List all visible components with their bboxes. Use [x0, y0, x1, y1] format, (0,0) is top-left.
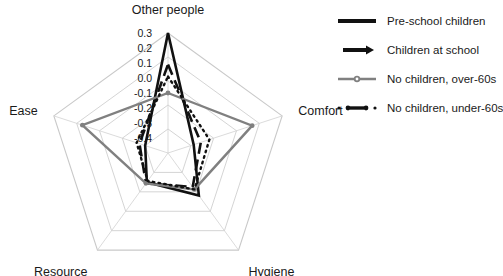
- axis-label-other-people: Other people: [132, 3, 204, 17]
- legend-item[interactable]: Children at school: [336, 35, 496, 64]
- gray-marker-line-key: [336, 72, 378, 86]
- legend-label: Pre-school children: [387, 14, 485, 28]
- legend-label: No children, over-60s: [387, 72, 496, 86]
- dotted-marker-line-key: [336, 101, 378, 115]
- axis-label-hygiene: Hygiene: [249, 265, 295, 276]
- axis-category-labels: Other peopleComfortHygieneResourceEase: [9, 3, 343, 276]
- legend-item[interactable]: No children, over-60s: [336, 64, 496, 93]
- axis-label-resource: Resource: [34, 265, 88, 276]
- solid-thick-line-key: [336, 14, 378, 28]
- axis-label-ease: Ease: [9, 104, 38, 118]
- legend-item[interactable]: No children, under-60s: [336, 93, 496, 122]
- tick-label: -0.1: [134, 87, 152, 99]
- arrow-dash-line-key: [336, 43, 378, 57]
- tick-label: 0.3: [137, 27, 152, 39]
- series-marker: [80, 123, 85, 128]
- tick-label: 0.1: [137, 57, 152, 69]
- tick-label: 0.2: [137, 42, 152, 54]
- legend-label: No children, under-60s: [387, 101, 503, 115]
- series-marker: [250, 123, 255, 128]
- tick-label: 0.0: [137, 72, 152, 84]
- legend-label: Children at school: [387, 43, 479, 57]
- chart-legend: Pre-school childrenChildren at schoolNo …: [336, 6, 496, 122]
- legend-item[interactable]: Pre-school children: [336, 6, 496, 35]
- series-line-2: [82, 93, 252, 189]
- series-marker: [166, 91, 171, 96]
